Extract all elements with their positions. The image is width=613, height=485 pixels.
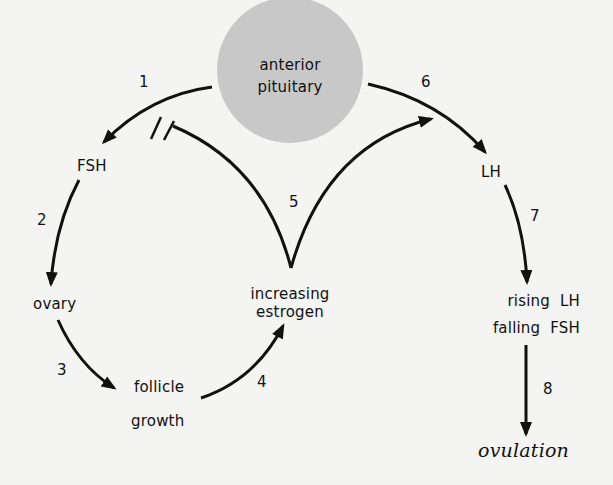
step-1-label: 1	[139, 73, 149, 91]
arrow-6	[368, 84, 485, 152]
pituitary-label-line1: anterior	[259, 56, 320, 74]
step-8-label: 8	[543, 380, 553, 398]
arrow-5-inhibit	[173, 126, 291, 268]
step-6-label: 6	[421, 73, 431, 91]
arrow-7	[505, 185, 527, 282]
ovary-label: ovary	[33, 295, 76, 313]
pituitary-label-line2: pituitary	[257, 78, 322, 96]
ovulation-label: ovulation	[478, 441, 569, 459]
step-5-label: 5	[289, 193, 299, 211]
step-2-label: 2	[37, 211, 47, 229]
follicle-label-line1: follicle	[134, 378, 184, 396]
arrow-2	[51, 180, 79, 284]
arrow-4	[201, 326, 283, 398]
follicle-label-line2: growth	[131, 412, 184, 430]
estrogen-label-line1: increasing	[250, 285, 329, 303]
falling-fsh-label: falling FSH	[466, 319, 580, 337]
lh-label: LH	[481, 163, 501, 181]
step-3-label: 3	[57, 361, 67, 379]
fsh-label: FSH	[77, 157, 107, 175]
step-7-label: 7	[530, 207, 540, 225]
arrow-1	[104, 87, 212, 142]
block-slash-1	[151, 117, 161, 139]
arrow-5-stimulate	[291, 119, 431, 268]
rising-lh-label: rising LH	[466, 292, 580, 310]
inhibit-bar-end	[164, 121, 174, 140]
estrogen-label-line2: estrogen	[256, 303, 324, 321]
step-4-label: 4	[257, 373, 267, 391]
